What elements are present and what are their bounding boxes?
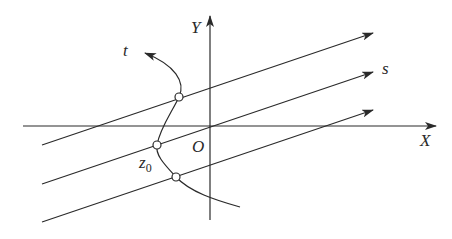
- point-z0-label: z0: [138, 153, 152, 175]
- x-axis-label: X: [419, 131, 431, 150]
- y-axis-label: Y: [191, 18, 202, 37]
- curve-t-label: t: [123, 41, 129, 60]
- diagram-canvas: Y X O t s z0: [0, 0, 452, 239]
- point-subscript: 0: [146, 161, 152, 175]
- parallel-line-3: [42, 110, 373, 222]
- lines-s-label: s: [382, 59, 389, 78]
- intersection-point-bottom: [172, 173, 180, 181]
- intersection-point-z0: [153, 141, 161, 149]
- origin-label: O: [192, 137, 204, 156]
- curve-t: [145, 53, 240, 207]
- intersection-point-top: [175, 93, 183, 101]
